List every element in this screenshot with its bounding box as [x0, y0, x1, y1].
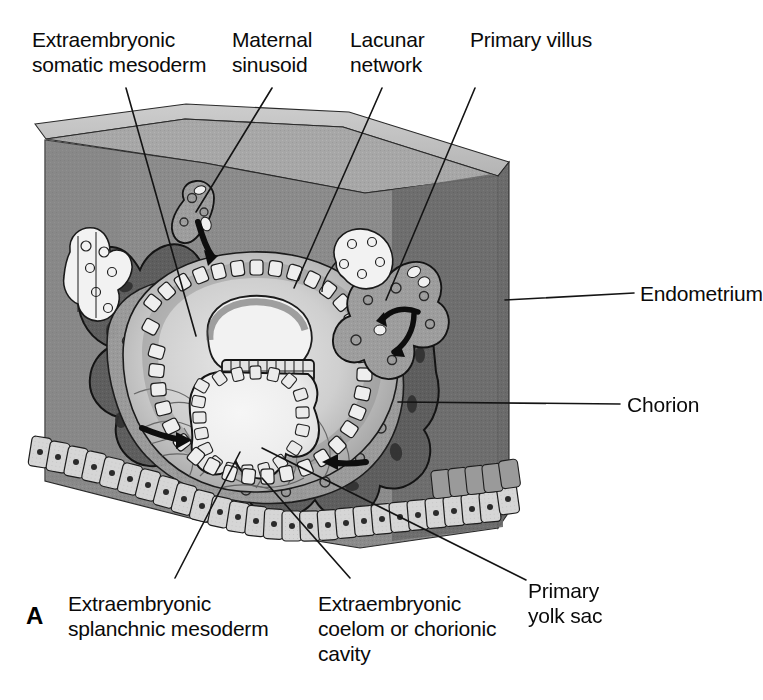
label-lacunar-network: Lacunarnetwork — [350, 27, 425, 77]
label-line-2: somatic mesoderm — [32, 53, 206, 76]
label-line-1: Extraembryonic — [318, 592, 461, 615]
leader-endometrium — [505, 293, 634, 300]
label-extraembryonic-splanchnic-mesoderm: Extraembryonicsplanchnic mesoderm — [68, 591, 268, 641]
label-maternal-sinusoid: Maternalsinusoid — [232, 27, 312, 77]
label-chorion: Chorion — [627, 392, 699, 417]
panel-letter-text: A — [26, 602, 43, 629]
label-line-1: Primary villus — [470, 28, 592, 51]
label-line-2: network — [350, 53, 422, 76]
label-line-2: splanchnic mesoderm — [68, 617, 268, 640]
label-line-3: cavity — [318, 642, 370, 665]
label-line-1: Extraembryonic — [68, 592, 211, 615]
label-line-2: coelom or chorionic — [318, 617, 496, 640]
label-extraembryonic-coelom: Extraembryoniccoelom or chorioniccavity — [318, 591, 496, 666]
label-extraembryonic-somatic-mesoderm: Extraembryonicsomatic mesoderm — [32, 27, 206, 77]
label-line-1: Maternal — [232, 28, 312, 51]
label-line-2: yolk sac — [528, 604, 602, 627]
panel-letter-a: A — [26, 602, 43, 630]
label-primary-yolk-sac: Primaryyolk sac — [528, 578, 602, 628]
label-line-1: Chorion — [627, 393, 699, 416]
label-endometrium: Endometrium — [640, 281, 763, 306]
label-line-1: Primary — [528, 579, 599, 602]
label-line-2: sinusoid — [232, 53, 307, 76]
label-line-1: Endometrium — [640, 282, 763, 305]
label-line-1: Extraembryonic — [32, 28, 175, 51]
label-primary-villus: Primary villus — [470, 27, 592, 52]
label-line-1: Lacunar — [350, 28, 425, 51]
